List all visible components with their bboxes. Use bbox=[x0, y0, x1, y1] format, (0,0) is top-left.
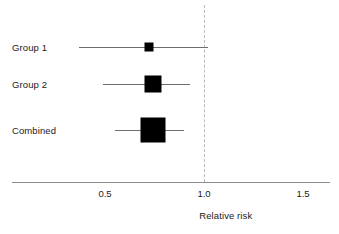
x-axis-tick-label: 0.5 bbox=[98, 188, 111, 199]
point-estimate-marker bbox=[144, 43, 153, 52]
study-row-label: Group 1 bbox=[12, 42, 47, 53]
reference-line-no-effect bbox=[204, 5, 205, 182]
x-axis-tick-label: 1.5 bbox=[296, 188, 309, 199]
point-estimate-marker bbox=[140, 118, 165, 143]
x-axis-line bbox=[12, 182, 330, 183]
study-row-label: Group 2 bbox=[12, 79, 47, 90]
x-axis-title: Relative risk bbox=[199, 210, 252, 221]
plot-area: Group 1Group 2Combined 0.51.01.5 Relativ… bbox=[0, 0, 339, 234]
point-estimate-marker bbox=[144, 76, 161, 93]
forest-plot: Group 1Group 2Combined 0.51.01.5 Relativ… bbox=[0, 0, 339, 234]
study-row-label: Combined bbox=[12, 125, 56, 136]
x-axis-tick-label: 1.0 bbox=[197, 188, 210, 199]
